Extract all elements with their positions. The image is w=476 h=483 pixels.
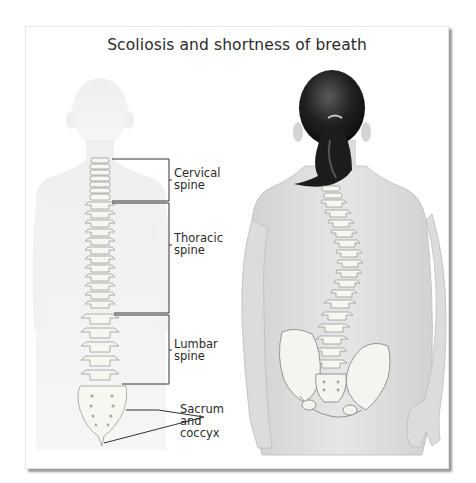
label-lumbar-spine: Lumbar spine	[174, 338, 218, 362]
label-line: coccyx	[180, 427, 224, 439]
label-line: spine	[174, 179, 220, 191]
label-sacrum-and-coccyx: Sacrum and coccyx	[180, 403, 224, 439]
label-line: spine	[174, 350, 218, 362]
label-thoracic-spine: Thoracic spine	[174, 232, 223, 256]
illustration	[0, 0, 476, 483]
label-cervical-spine: Cervical spine	[174, 167, 220, 191]
label-line: spine	[174, 244, 223, 256]
